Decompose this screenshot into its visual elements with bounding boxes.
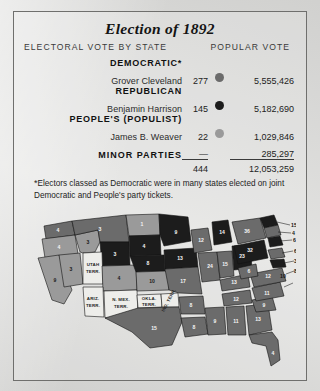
svg-text:36: 36 [244,228,250,234]
table-row-minor-parties: MINOR PARTIES — 285,297 [22,142,294,160]
table-row-party-label: PEOPLE'S (POPULIST) [22,114,294,124]
party-name-populist: PEOPLE'S (POPULIST) [22,114,182,124]
svg-text:10: 10 [149,278,155,284]
svg-text:24: 24 [207,263,213,269]
svg-text:23: 23 [239,253,245,259]
total-popular-votes: 12,053,259 [230,164,294,174]
svg-text:N. MEX.: N. MEX. [112,297,130,302]
svg-text:32: 32 [247,247,253,253]
svg-text:15: 15 [151,325,157,331]
svg-text:13: 13 [231,279,237,285]
electoral-votes-democratic: 277 [182,68,208,86]
results-table-body: DEMOCRATIC* Grover Cleveland 277 5,555,4… [22,58,294,174]
svg-text:8: 8 [147,260,150,266]
svg-text:11: 11 [233,318,239,324]
svg-text:ARIZ.: ARIZ. [87,296,99,301]
svg-text:13: 13 [177,255,183,261]
results-table: DEMOCRATIC* Grover Cleveland 277 5,555,4… [22,58,294,174]
svg-text:4: 4 [58,244,61,250]
candidate-name-democratic: Grover Cleveland [22,68,182,86]
svg-text:12: 12 [265,273,271,279]
svg-text:4: 4 [272,350,275,356]
svg-text:1: 1 [141,221,144,227]
svg-text:14: 14 [219,229,225,235]
electoral-map: 4 4 9 3 3 3 3 4 1 4 8 10 15 9 13 17 8 8 … [28,208,296,378]
candidate-name-republican: Benjamin Harrison [22,96,182,114]
footnote-text: Electors classed as Democratic were in m… [34,179,284,200]
total-electoral-votes: 444 [182,164,208,174]
svg-text:4: 4 [57,227,60,233]
minor-parties-popular: 285,297 [230,142,294,160]
svg-text:9: 9 [263,302,266,308]
table-row: Benjamin Harrison 145 5,182,690 [22,96,294,114]
svg-text:OKLA.: OKLA. [142,296,157,301]
footnote: *Electors classed as Democratic were in … [34,178,292,201]
candidate-name-populist: James B. Weaver [22,124,182,142]
popular-votes-democratic: 5,555,426 [230,68,294,86]
svg-text:12: 12 [233,296,239,302]
column-header-electoral: ELECTORAL VOTE BY STATE [24,42,167,52]
table-row: James B. Weaver 22 1,029,846 [22,124,294,142]
popular-votes-populist: 1,029,846 [230,124,294,142]
table-row-totals: 444 12,053,259 [22,164,294,174]
svg-text:TERR.: TERR. [114,304,128,309]
color-swatch-democratic [208,68,230,86]
svg-text:6: 6 [294,248,296,254]
svg-text:UTAH: UTAH [87,262,100,267]
legend-dot-populist [215,129,224,138]
table-row-party-label: REPUBLICAN [22,86,294,96]
svg-text:17: 17 [180,278,186,284]
legend-dot-democratic [215,73,224,82]
infographic-frame: Election of 1892 ELECTORAL VOTE BY STATE… [13,11,307,381]
electoral-votes-republican: 145 [182,96,208,114]
svg-text:9: 9 [54,277,57,283]
table-row-party-label: DEMOCRATIC* [22,58,294,68]
svg-text:3: 3 [87,239,90,245]
svg-text:11: 11 [264,290,270,296]
svg-text:9: 9 [214,318,217,324]
svg-text:4: 4 [143,243,146,249]
svg-text:3: 3 [99,226,102,232]
svg-text:15: 15 [222,261,228,267]
svg-text:TERR.: TERR. [142,302,156,307]
svg-text:8: 8 [190,302,193,308]
svg-text:13: 13 [255,316,261,322]
svg-text:TERR.: TERR. [86,303,100,308]
svg-text:3: 3 [294,258,296,264]
electoral-votes-populist: 22 [182,124,208,142]
svg-text:8: 8 [193,324,196,330]
svg-text:6: 6 [248,268,251,274]
table-row: Grover Cleveland 277 5,555,426 [22,68,294,86]
column-headers: ELECTORAL VOTE BY STATE POPULAR VOTE [24,42,298,52]
svg-text:4: 4 [118,275,121,281]
svg-text:8: 8 [294,268,296,274]
svg-text:10: 10 [280,273,286,279]
svg-text:4: 4 [292,230,295,236]
svg-text:3: 3 [70,266,73,272]
color-swatch-republican [208,96,230,114]
svg-text:TERR.: TERR. [86,269,100,274]
map-state-shapes [38,214,286,366]
minor-parties-label: MINOR PARTIES [22,142,182,160]
electoral-map-svg: 4 4 9 3 3 3 3 4 1 4 8 10 15 9 13 17 8 8 … [28,208,296,378]
svg-text:15: 15 [291,222,296,228]
svg-text:12: 12 [198,237,204,243]
svg-text:6: 6 [293,237,296,243]
popular-votes-republican: 5,182,690 [230,96,294,114]
page-title: Election of 1892 [14,20,306,38]
svg-text:3: 3 [114,251,117,257]
legend-dot-republican [215,101,224,110]
party-name-republican: REPUBLICAN [22,86,182,96]
svg-text:9: 9 [175,229,178,235]
column-header-popular: POPULAR VOTE [211,42,290,52]
color-swatch-populist [208,124,230,142]
party-name-democratic: DEMOCRATIC* [22,58,182,68]
minor-parties-electoral: — [182,142,208,160]
